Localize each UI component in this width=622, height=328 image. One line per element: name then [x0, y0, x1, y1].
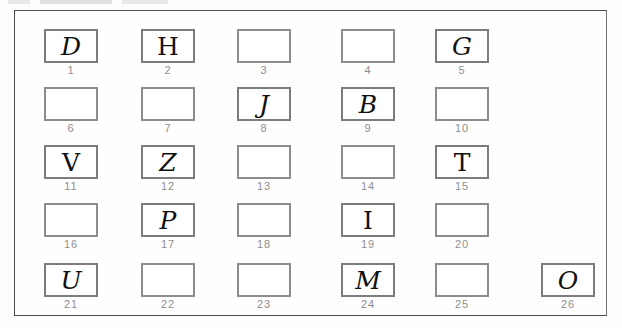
- letter-box-filled[interactable]: I: [341, 203, 395, 237]
- letter-box-empty[interactable]: [435, 263, 489, 297]
- cell-number-label: 24: [341, 298, 395, 310]
- letter-box-empty[interactable]: [237, 203, 291, 237]
- cell-number-label: 5: [435, 64, 489, 76]
- cell-number-label: 21: [44, 298, 98, 310]
- grid-cell[interactable]: V11: [44, 145, 104, 192]
- grid-cell[interactable]: 7: [141, 87, 201, 134]
- letter-grid: D1H234G567J8B910V11Z121314T1516P1718I192…: [15, 11, 608, 317]
- grid-cell[interactable]: J8: [237, 87, 297, 134]
- cell-number-label: 23: [237, 298, 291, 310]
- cell-number-label: 18: [237, 238, 291, 250]
- cell-number-label: 16: [44, 238, 98, 250]
- cell-number-label: 6: [44, 122, 98, 134]
- handwritten-letter: G: [437, 34, 487, 59]
- form-border-frame: D1H234G567J8B910V11Z121314T1516P1718I192…: [14, 10, 607, 316]
- cell-number-label: 19: [341, 238, 395, 250]
- grid-cell[interactable]: 18: [237, 203, 297, 250]
- cell-number-label: 1: [44, 64, 98, 76]
- grid-cell[interactable]: D1: [44, 29, 104, 76]
- letter-box-filled[interactable]: J: [237, 87, 291, 121]
- letter-box-filled[interactable]: V: [44, 145, 98, 179]
- letter-box-filled[interactable]: U: [44, 263, 98, 297]
- letter-box-empty[interactable]: [435, 87, 489, 121]
- grid-cell[interactable]: 4: [341, 29, 401, 76]
- handwritten-letter: M: [343, 268, 393, 293]
- grid-cell[interactable]: 6: [44, 87, 104, 134]
- letter-box-empty[interactable]: [237, 29, 291, 63]
- cell-number-label: 26: [541, 298, 595, 310]
- grid-cell[interactable]: 25: [435, 263, 495, 310]
- letter-box-empty[interactable]: [341, 145, 395, 179]
- cell-number-label: 17: [141, 238, 195, 250]
- grid-cell[interactable]: 16: [44, 203, 104, 250]
- cell-number-label: 8: [237, 122, 291, 134]
- grid-cell[interactable]: 13: [237, 145, 297, 192]
- letter-box-filled[interactable]: O: [541, 263, 595, 297]
- handwritten-letter: P: [143, 208, 193, 233]
- cell-number-label: 14: [341, 180, 395, 192]
- handwritten-letter: Z: [143, 150, 193, 175]
- grid-cell[interactable]: 14: [341, 145, 401, 192]
- letter-box-filled[interactable]: B: [341, 87, 395, 121]
- letter-box-empty[interactable]: [44, 87, 98, 121]
- letter-box-empty[interactable]: [237, 263, 291, 297]
- letter-box-filled[interactable]: T: [435, 145, 489, 179]
- cell-number-label: 3: [237, 64, 291, 76]
- grid-cell[interactable]: H2: [141, 29, 201, 76]
- handwritten-letter: J: [239, 92, 289, 117]
- cell-number-label: 22: [141, 298, 195, 310]
- cell-number-label: 12: [141, 180, 195, 192]
- handwritten-letter: H: [143, 34, 193, 59]
- handwritten-letter: I: [343, 208, 393, 233]
- cell-number-label: 7: [141, 122, 195, 134]
- grid-cell[interactable]: P17: [141, 203, 201, 250]
- grid-cell[interactable]: 23: [237, 263, 297, 310]
- grid-cell[interactable]: 20: [435, 203, 495, 250]
- cell-number-label: 10: [435, 122, 489, 134]
- cell-number-label: 11: [44, 180, 98, 192]
- grid-cell[interactable]: I19: [341, 203, 401, 250]
- letter-box-empty[interactable]: [141, 87, 195, 121]
- grid-cell[interactable]: M24: [341, 263, 401, 310]
- handwritten-letter: V: [46, 150, 96, 175]
- letter-box-empty[interactable]: [141, 263, 195, 297]
- letter-box-empty[interactable]: [44, 203, 98, 237]
- cell-number-label: 13: [237, 180, 291, 192]
- grid-cell[interactable]: 10: [435, 87, 495, 134]
- scan-edge-artifact: [122, 0, 168, 4]
- handwritten-letter: B: [343, 92, 393, 117]
- cell-number-label: 4: [341, 64, 395, 76]
- letter-box-filled[interactable]: Z: [141, 145, 195, 179]
- letter-box-filled[interactable]: H: [141, 29, 195, 63]
- handwritten-letter: U: [46, 268, 96, 293]
- worksheet-page: D1H234G567J8B910V11Z121314T1516P1718I192…: [0, 0, 622, 328]
- cell-number-label: 9: [341, 122, 395, 134]
- letter-box-empty[interactable]: [237, 145, 291, 179]
- cell-number-label: 25: [435, 298, 489, 310]
- grid-cell[interactable]: U21: [44, 263, 104, 310]
- letter-box-empty[interactable]: [341, 29, 395, 63]
- grid-cell[interactable]: T15: [435, 145, 495, 192]
- handwritten-letter: T: [437, 150, 487, 175]
- cell-number-label: 15: [435, 180, 489, 192]
- grid-cell[interactable]: Z12: [141, 145, 201, 192]
- letter-box-filled[interactable]: P: [141, 203, 195, 237]
- grid-cell[interactable]: 22: [141, 263, 201, 310]
- handwritten-letter: D: [46, 34, 96, 59]
- scan-edge-artifact: [40, 0, 112, 4]
- grid-cell[interactable]: G5: [435, 29, 495, 76]
- letter-box-filled[interactable]: G: [435, 29, 489, 63]
- cell-number-label: 20: [435, 238, 489, 250]
- cell-number-label: 2: [141, 64, 195, 76]
- handwritten-letter: O: [543, 268, 593, 293]
- grid-cell[interactable]: B9: [341, 87, 401, 134]
- letter-box-empty[interactable]: [435, 203, 489, 237]
- scan-edge-artifact: [8, 0, 30, 4]
- letter-box-filled[interactable]: D: [44, 29, 98, 63]
- letter-box-filled[interactable]: M: [341, 263, 395, 297]
- grid-cell[interactable]: 3: [237, 29, 297, 76]
- grid-cell[interactable]: O26: [541, 263, 601, 310]
